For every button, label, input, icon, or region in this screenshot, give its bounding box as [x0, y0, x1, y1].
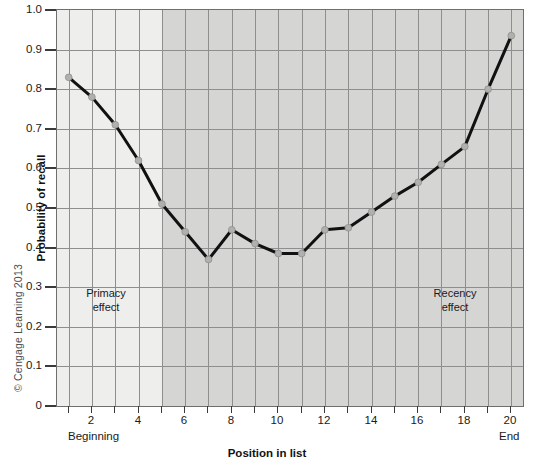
- data-point-17: [438, 161, 445, 168]
- annotation-recency-effect: Recency effect: [420, 286, 490, 314]
- y-tick-label-0.1: 0.1: [6, 359, 42, 371]
- x-tick-5: [161, 406, 162, 413]
- annotation-primacy-line1: Primacy: [71, 286, 141, 300]
- y-tick-0.6: [45, 167, 56, 169]
- x-axis-title: Position in list: [0, 447, 534, 459]
- x-tick-11: [301, 406, 302, 413]
- data-point-16: [415, 179, 422, 186]
- x-tick-label-8: 8: [216, 414, 246, 426]
- annotation-primacy-effect: Primacy effect: [71, 286, 141, 314]
- x-tick-label-18: 18: [449, 414, 479, 426]
- x-tick-9: [254, 406, 255, 413]
- y-tick-label-0.3: 0.3: [6, 280, 42, 292]
- y-tick-label-1.0: 1.0: [6, 3, 42, 15]
- y-tick-0.8: [45, 88, 56, 90]
- y-tick-0.9: [45, 49, 56, 51]
- data-point-14: [368, 209, 375, 216]
- x-tick-label-4: 4: [123, 414, 153, 426]
- x-axis-end-label: End: [499, 430, 519, 442]
- y-tick-label-0.7: 0.7: [6, 122, 42, 134]
- y-tick-0.5: [45, 207, 56, 209]
- x-tick-1: [68, 406, 69, 413]
- data-point-1: [65, 74, 72, 81]
- recall-curve: [57, 10, 523, 406]
- serial-position-curve-figure: © Cengage Learning 2013 Probability of r…: [0, 0, 534, 467]
- x-tick-3: [114, 406, 115, 413]
- x-tick-15: [394, 406, 395, 413]
- data-point-20: [508, 32, 515, 39]
- data-point-19: [485, 86, 492, 93]
- annotation-recency-line2: effect: [420, 300, 490, 314]
- data-point-10: [275, 250, 282, 257]
- y-tick-label-0: 0: [6, 399, 42, 411]
- x-tick-label-14: 14: [356, 414, 386, 426]
- data-point-7: [205, 256, 212, 263]
- x-tick-19: [487, 406, 488, 413]
- x-tick-14: [371, 406, 372, 413]
- data-point-6: [182, 228, 189, 235]
- data-point-13: [345, 224, 352, 231]
- y-tick-label-0.8: 0.8: [6, 82, 42, 94]
- x-tick-6: [184, 406, 185, 413]
- curve-data-point-markers: [65, 32, 514, 263]
- x-tick-18: [464, 406, 465, 413]
- x-tick-label-10: 10: [262, 414, 292, 426]
- data-point-4: [135, 157, 142, 164]
- y-tick-0.4: [45, 247, 56, 249]
- data-point-11: [298, 250, 305, 257]
- y-tick-label-0.2: 0.2: [6, 320, 42, 332]
- x-tick-label-20: 20: [495, 414, 525, 426]
- x-tick-10: [277, 406, 278, 413]
- data-point-5: [159, 201, 166, 208]
- data-point-2: [89, 94, 96, 101]
- y-tick-0.7: [45, 128, 56, 130]
- x-tick-label-2: 2: [76, 414, 106, 426]
- x-tick-4: [138, 406, 139, 413]
- y-tick-0.3: [45, 286, 56, 288]
- y-tick-label-0.6: 0.6: [6, 161, 42, 173]
- x-tick-2: [91, 406, 92, 413]
- x-tick-8: [231, 406, 232, 413]
- x-axis-beginning-label: Beginning: [68, 430, 119, 442]
- x-tick-label-6: 6: [169, 414, 199, 426]
- data-point-12: [322, 226, 329, 233]
- x-tick-label-16: 16: [402, 414, 432, 426]
- data-point-8: [228, 226, 235, 233]
- x-tick-label-12: 12: [309, 414, 339, 426]
- curve-polyline: [69, 36, 512, 260]
- y-tick-label-0.9: 0.9: [6, 43, 42, 55]
- x-tick-7: [207, 406, 208, 413]
- data-point-9: [252, 240, 259, 247]
- y-tick-0.2: [45, 326, 56, 328]
- y-tick-label-0.4: 0.4: [6, 241, 42, 253]
- data-point-3: [112, 121, 119, 128]
- x-tick-20: [510, 406, 511, 413]
- y-tick-1.0: [45, 9, 56, 11]
- data-point-15: [391, 193, 398, 200]
- x-tick-16: [417, 406, 418, 413]
- annotation-primacy-line2: effect: [71, 300, 141, 314]
- y-tick-0: [45, 405, 56, 407]
- y-tick-0.1: [45, 365, 56, 367]
- x-tick-12: [324, 406, 325, 413]
- x-tick-13: [347, 406, 348, 413]
- plot-area: Primacy effect Recency effect: [56, 9, 524, 407]
- annotation-recency-line1: Recency: [420, 286, 490, 300]
- data-point-18: [461, 143, 468, 150]
- x-tick-17: [440, 406, 441, 413]
- y-tick-label-0.5: 0.5: [6, 201, 42, 213]
